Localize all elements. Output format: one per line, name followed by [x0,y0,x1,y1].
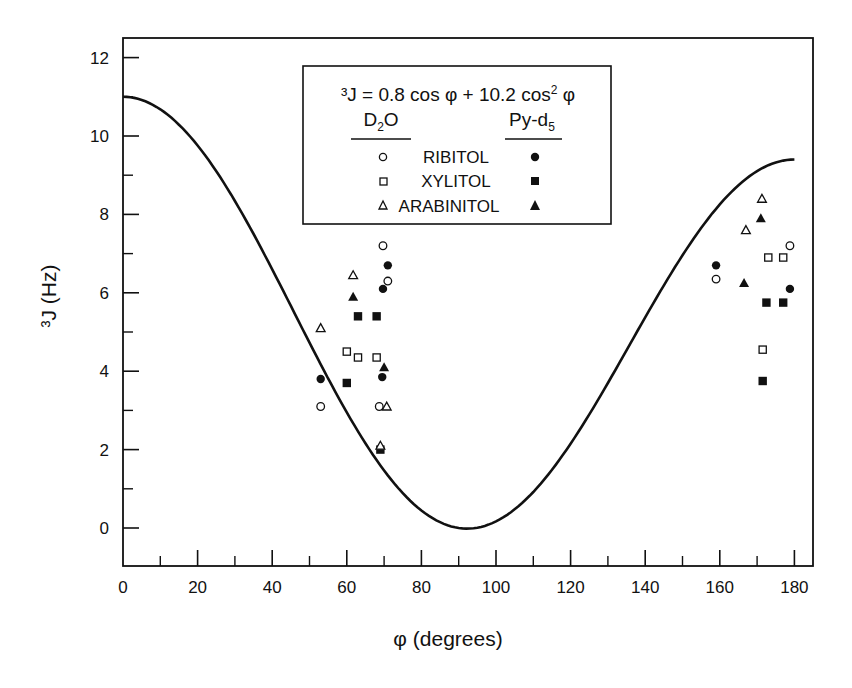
open-circle-marker [712,275,720,283]
open-triangle-marker [349,271,358,279]
filled-square-marker [343,379,351,387]
x-tick-label: 0 [118,578,127,597]
filled-circle-marker [379,285,387,293]
x-tick-label: 120 [556,578,584,597]
x-tick-label: 180 [780,578,808,597]
filled-circle-marker [378,373,386,381]
x-tick-label: 100 [482,578,510,597]
series-xylitol-py-d5- [343,298,788,453]
filled-circle-marker [712,261,720,269]
x-tick-label: 40 [263,578,282,597]
legend-equation: ³J = 0.8 cos φ + 10.2 cos2 φ [341,83,575,105]
filled-triangle-marker [756,213,766,222]
open-square-marker [343,348,350,355]
filled-square-marker [372,312,380,320]
y-tick-label: 10 [90,127,109,146]
legend-col-d2o-tail: O [384,109,399,130]
open-square-marker [373,354,380,361]
legend-label-xylitol: XYLITOL [421,172,491,191]
y-tick-label: 2 [100,441,109,460]
filled-square-marker [758,377,766,385]
open-circle-marker [786,242,794,250]
y-tick-label: 0 [100,519,109,538]
series-xylitol-d2o- [343,254,787,361]
filled-triangle-marker [739,278,749,287]
legend-equation-tail: φ [557,84,575,105]
open-triangle-marker [758,194,767,202]
y-tick-label: 6 [100,284,109,303]
open-triangle-marker [316,324,325,332]
open-circle-marker [375,403,383,411]
x-tick-label: 140 [631,578,659,597]
y-tick-label: 8 [100,205,109,224]
x-tick-label: 20 [188,578,207,597]
karplus-chart: 020406080100120140160180 024681012 φ (de… [0,0,852,688]
open-circle-icon [379,153,386,160]
open-circle-marker [379,242,387,250]
x-axis: 020406080100120140160180 [118,550,808,597]
open-square-marker [759,346,766,353]
legend-label-arabinitol: ARABINITOL [399,197,500,216]
open-square-marker [780,254,787,261]
x-tick-label: 60 [337,578,356,597]
legend-col-d2o-main: D [363,109,377,130]
y-axis-title: ³J (Hz) [37,265,60,328]
filled-circle-marker [786,285,794,293]
y-tick-label: 12 [90,49,109,68]
legend: ³J = 0.8 cos φ + 10.2 cos2 φ D2O Py-d5 R… [303,66,611,224]
open-circle-marker [384,277,392,285]
open-circle-marker [317,403,325,411]
legend-label-ribitol: RIBITOL [423,148,489,167]
filled-square-marker [354,312,362,320]
x-axis-title: φ (degrees) [393,627,502,650]
legend-col-pyd5-main: Py-d [509,109,548,130]
filled-circle-icon [531,153,539,161]
y-tick-label: 4 [100,362,109,381]
legend-equation-main: ³J = 0.8 cos φ + 10.2 cos [341,84,551,105]
open-triangle-marker [376,441,385,449]
filled-circle-marker [316,375,324,383]
legend-col-pyd5-sub: 5 [548,120,555,134]
x-tick-label: 160 [706,578,734,597]
x-tick-label: 80 [412,578,431,597]
open-square-marker [354,354,361,361]
open-triangle-marker [742,226,751,234]
filled-square-marker [779,298,787,306]
filled-circle-marker [384,261,392,269]
data-points [316,194,794,453]
y-axis: 024681012 [90,49,139,538]
filled-square-marker [762,298,770,306]
series-arabinitol-py-d5- [348,213,766,371]
filled-triangle-marker [348,292,358,301]
filled-square-icon [531,177,539,185]
open-square-icon [380,178,387,185]
open-square-marker [765,254,772,261]
filled-triangle-marker [379,362,389,371]
